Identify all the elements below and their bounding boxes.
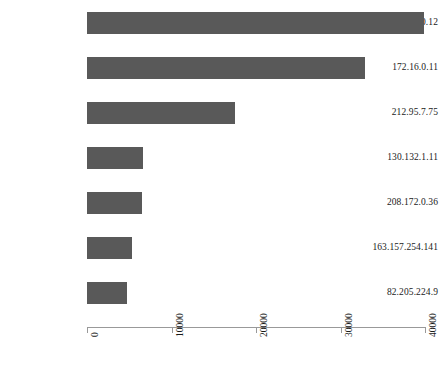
category-label: 172.16.0.11	[359, 63, 438, 73]
bar	[87, 147, 143, 169]
x-axis-tick-label: 20000	[260, 313, 270, 337]
category-label: 82.205.224.9	[359, 288, 438, 298]
category-label: 130.132.1.11	[359, 153, 438, 163]
bar	[87, 237, 132, 259]
x-axis-tick-label: 0	[91, 332, 101, 337]
x-axis-tick-label: 30000	[345, 313, 355, 337]
category-label: 212.95.7.75	[359, 108, 438, 118]
bar	[87, 192, 142, 214]
x-axis-tick-label: 10000	[176, 313, 186, 337]
x-axis-tick-mark	[87, 327, 88, 333]
x-axis-tick-mark	[172, 327, 173, 333]
bar	[87, 12, 424, 34]
category-label: 163.157.254.141	[359, 243, 438, 253]
bar	[87, 102, 235, 124]
x-axis-tick-label: 40000	[429, 313, 439, 337]
x-axis-tick-mark	[256, 327, 257, 333]
bar	[87, 282, 127, 304]
category-label: 208.172.0.36	[359, 198, 438, 208]
x-axis-tick-mark	[425, 327, 426, 333]
bar	[87, 57, 365, 79]
x-axis-tick-mark	[341, 327, 342, 333]
